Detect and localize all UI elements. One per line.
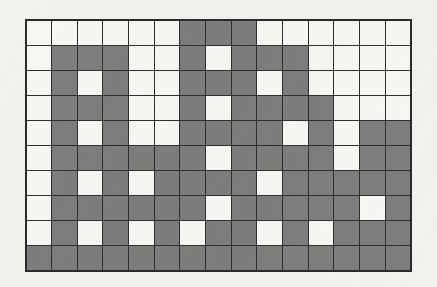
grid-cell-filled[interactable] [334,221,360,246]
grid-cell-empty[interactable] [129,45,155,70]
grid-cell-empty[interactable] [129,221,155,246]
grid-cell-filled[interactable] [180,145,206,170]
grid-cell-empty[interactable] [154,70,180,95]
grid-cell-filled[interactable] [308,120,334,145]
grid-cell-filled[interactable] [283,171,309,196]
pattern-grid[interactable] [25,19,412,272]
grid-cell-filled[interactable] [52,95,78,120]
grid-cell-empty[interactable] [283,120,309,145]
grid-cell-filled[interactable] [308,246,334,271]
grid-cell-filled[interactable] [385,145,411,170]
grid-cell-filled[interactable] [52,246,78,271]
grid-cell-filled[interactable] [257,120,283,145]
grid-pattern-figure[interactable] [25,19,412,272]
grid-cell-filled[interactable] [77,95,103,120]
grid-cell-empty[interactable] [129,171,155,196]
grid-cell-empty[interactable] [103,20,129,45]
grid-cell-filled[interactable] [283,45,309,70]
grid-cell-empty[interactable] [385,70,411,95]
grid-cell-filled[interactable] [154,246,180,271]
grid-cell-empty[interactable] [26,171,52,196]
grid-cell-empty[interactable] [334,145,360,170]
grid-cell-filled[interactable] [231,45,257,70]
grid-cell-filled[interactable] [103,70,129,95]
grid-cell-empty[interactable] [180,221,206,246]
grid-cell-filled[interactable] [385,120,411,145]
grid-cell-filled[interactable] [103,120,129,145]
grid-cell-filled[interactable] [180,120,206,145]
grid-cell-filled[interactable] [334,246,360,271]
grid-cell-filled[interactable] [360,246,386,271]
grid-cell-empty[interactable] [206,196,232,221]
grid-cell-filled[interactable] [257,145,283,170]
grid-cell-filled[interactable] [206,171,232,196]
grid-cell-filled[interactable] [77,246,103,271]
grid-cell-filled[interactable] [385,221,411,246]
grid-cell-empty[interactable] [26,70,52,95]
grid-cell-empty[interactable] [283,20,309,45]
grid-cell-empty[interactable] [26,221,52,246]
grid-cell-empty[interactable] [26,120,52,145]
grid-cell-filled[interactable] [334,171,360,196]
grid-cell-filled[interactable] [385,196,411,221]
grid-cell-empty[interactable] [154,95,180,120]
grid-cell-filled[interactable] [283,246,309,271]
grid-cell-filled[interactable] [257,45,283,70]
grid-cell-filled[interactable] [52,221,78,246]
grid-cell-empty[interactable] [129,95,155,120]
grid-cell-empty[interactable] [360,95,386,120]
grid-cell-filled[interactable] [103,45,129,70]
grid-cell-filled[interactable] [77,196,103,221]
grid-cell-empty[interactable] [77,221,103,246]
grid-cell-empty[interactable] [334,20,360,45]
grid-cell-empty[interactable] [129,120,155,145]
grid-cell-empty[interactable] [129,70,155,95]
grid-cell-empty[interactable] [385,20,411,45]
grid-cell-empty[interactable] [77,120,103,145]
grid-cell-filled[interactable] [180,95,206,120]
grid-cell-filled[interactable] [103,196,129,221]
grid-cell-filled[interactable] [180,246,206,271]
grid-cell-empty[interactable] [129,20,155,45]
grid-cell-filled[interactable] [206,20,232,45]
grid-cell-filled[interactable] [231,171,257,196]
grid-cell-filled[interactable] [52,196,78,221]
grid-cell-filled[interactable] [52,70,78,95]
grid-cell-filled[interactable] [308,171,334,196]
grid-cell-filled[interactable] [283,70,309,95]
grid-cell-empty[interactable] [334,45,360,70]
grid-cell-filled[interactable] [206,70,232,95]
grid-cell-empty[interactable] [257,221,283,246]
grid-cell-filled[interactable] [231,70,257,95]
grid-cell-filled[interactable] [206,120,232,145]
grid-cell-filled[interactable] [52,145,78,170]
grid-cell-empty[interactable] [26,95,52,120]
grid-cell-filled[interactable] [180,70,206,95]
grid-cell-filled[interactable] [180,20,206,45]
grid-cell-filled[interactable] [360,145,386,170]
grid-cell-filled[interactable] [257,196,283,221]
grid-cell-filled[interactable] [77,45,103,70]
grid-cell-empty[interactable] [206,145,232,170]
grid-cell-empty[interactable] [308,221,334,246]
grid-cell-empty[interactable] [26,45,52,70]
grid-cell-empty[interactable] [77,70,103,95]
grid-cell-empty[interactable] [26,196,52,221]
grid-cell-empty[interactable] [308,20,334,45]
grid-cell-filled[interactable] [231,20,257,45]
grid-cell-filled[interactable] [231,95,257,120]
grid-cell-empty[interactable] [308,70,334,95]
grid-cell-empty[interactable] [360,70,386,95]
grid-cell-filled[interactable] [103,221,129,246]
grid-cell-filled[interactable] [103,145,129,170]
grid-cell-filled[interactable] [206,221,232,246]
grid-cell-filled[interactable] [154,145,180,170]
grid-cell-empty[interactable] [334,70,360,95]
grid-cell-empty[interactable] [154,20,180,45]
grid-cell-filled[interactable] [283,196,309,221]
grid-cell-filled[interactable] [283,221,309,246]
grid-cell-empty[interactable] [52,20,78,45]
grid-cell-filled[interactable] [52,45,78,70]
grid-cell-filled[interactable] [231,246,257,271]
grid-cell-filled[interactable] [154,171,180,196]
